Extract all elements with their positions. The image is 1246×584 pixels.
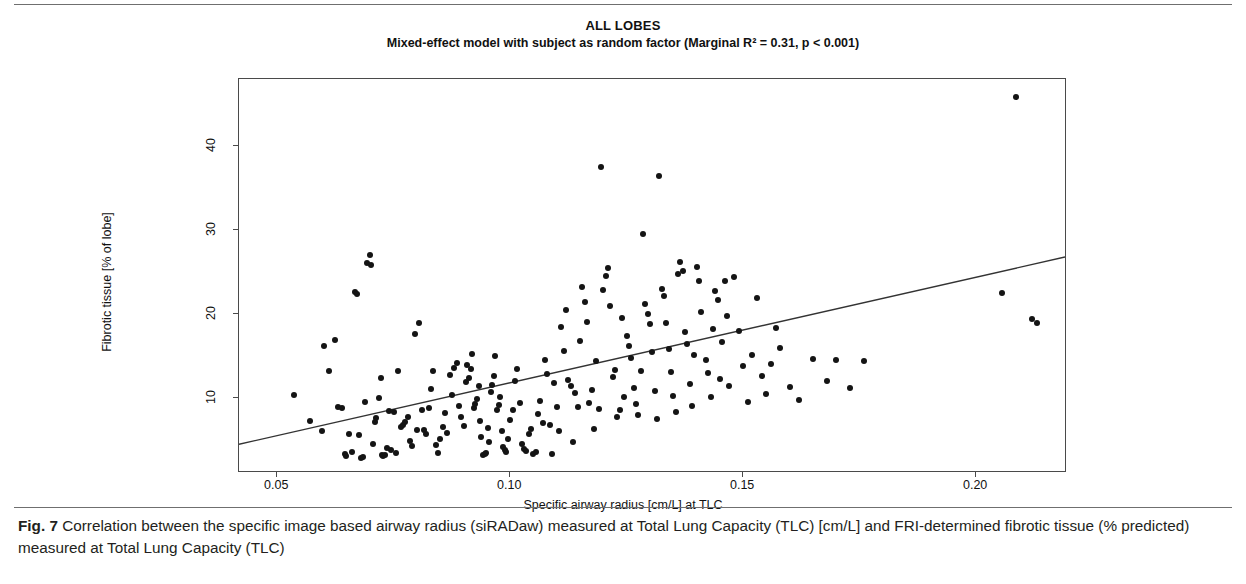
data-point	[437, 436, 443, 442]
data-point	[483, 450, 489, 456]
data-point	[668, 369, 674, 375]
data-point	[474, 396, 480, 402]
data-point	[579, 284, 585, 290]
data-point	[710, 326, 716, 332]
data-point	[847, 385, 853, 391]
y-axis-tick-label: 30	[204, 222, 218, 236]
data-point	[503, 449, 509, 455]
data-point	[447, 372, 453, 378]
data-point	[656, 173, 662, 179]
data-point	[708, 394, 714, 400]
figure-caption-text: Correlation between the specific image b…	[18, 517, 1189, 556]
data-point	[393, 450, 399, 456]
data-point	[696, 278, 702, 284]
data-point	[499, 428, 505, 434]
x-axis-tick-label: 0.10	[497, 478, 521, 492]
data-point	[722, 278, 728, 284]
data-point	[549, 451, 555, 457]
data-point	[715, 297, 721, 303]
data-point	[496, 402, 502, 408]
data-point	[486, 439, 492, 445]
data-point	[605, 265, 611, 271]
x-axis-tick	[742, 472, 743, 477]
data-point	[563, 307, 569, 313]
data-point	[661, 293, 667, 299]
data-point	[607, 303, 613, 309]
data-point	[339, 405, 345, 411]
data-point	[378, 375, 384, 381]
data-point	[343, 453, 349, 459]
data-point	[468, 366, 474, 372]
data-point	[1034, 320, 1040, 326]
data-point	[654, 416, 660, 422]
data-point	[633, 401, 639, 407]
data-point	[787, 384, 793, 390]
data-point	[698, 309, 704, 315]
data-point	[454, 360, 460, 366]
data-point	[621, 394, 627, 400]
data-point	[717, 376, 723, 382]
data-point	[449, 392, 455, 398]
data-point	[528, 426, 534, 432]
data-point	[362, 399, 368, 405]
data-point	[368, 262, 374, 268]
data-point	[535, 411, 541, 417]
chart-title: ALL LOBES	[0, 18, 1246, 33]
y-axis-tick-label: 20	[204, 306, 218, 320]
data-point	[551, 380, 557, 386]
data-point	[703, 357, 709, 363]
data-point	[763, 391, 769, 397]
data-point	[638, 368, 644, 374]
data-point	[684, 341, 690, 347]
y-axis-tick	[233, 145, 238, 146]
data-point	[376, 395, 382, 401]
data-point	[544, 371, 550, 377]
data-point	[428, 386, 434, 392]
data-point	[542, 357, 548, 363]
x-axis-tick-label: 0.05	[264, 478, 288, 492]
data-point	[773, 325, 779, 331]
data-point	[1013, 94, 1019, 100]
data-point	[861, 358, 867, 364]
data-point	[745, 399, 751, 405]
data-point	[430, 368, 436, 374]
data-point	[687, 381, 693, 387]
data-point	[472, 401, 478, 407]
data-point	[492, 353, 498, 359]
data-point	[469, 351, 475, 357]
data-point	[537, 398, 543, 404]
data-point	[649, 349, 655, 355]
data-point	[768, 361, 774, 367]
data-point	[419, 407, 425, 413]
data-point	[291, 392, 297, 398]
data-point	[354, 291, 360, 297]
x-axis-tick	[975, 472, 976, 477]
data-point	[759, 373, 765, 379]
data-point	[619, 315, 625, 321]
data-point	[694, 264, 700, 270]
data-point	[405, 414, 411, 420]
data-point	[736, 328, 742, 334]
data-point	[547, 422, 553, 428]
data-point	[682, 329, 688, 335]
data-point	[356, 432, 362, 438]
x-axis-title: Specific airway radius [cm/L] at TLC	[0, 498, 1246, 512]
data-point	[517, 400, 523, 406]
data-point	[586, 400, 592, 406]
data-point	[824, 378, 830, 384]
data-point	[477, 418, 483, 424]
data-point	[476, 383, 482, 389]
data-point	[598, 164, 604, 170]
data-point	[426, 405, 432, 411]
data-point	[626, 343, 632, 349]
data-point	[731, 274, 737, 280]
data-point	[670, 393, 676, 399]
data-point	[514, 366, 520, 372]
data-point	[740, 363, 746, 369]
data-point	[367, 252, 373, 258]
data-point	[659, 286, 665, 292]
data-point	[600, 287, 606, 293]
data-point	[596, 406, 602, 412]
data-point	[346, 431, 352, 437]
data-point	[373, 415, 379, 421]
